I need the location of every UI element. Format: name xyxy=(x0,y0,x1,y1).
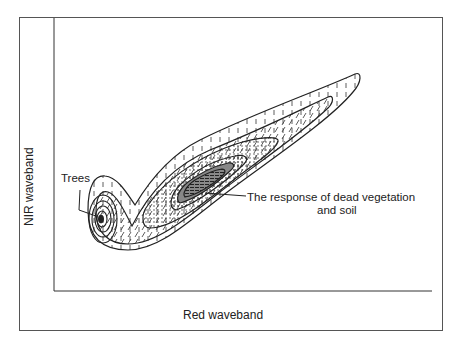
dead-vegetation-label-line1: The response of dead vegetation xyxy=(247,191,415,203)
dead-vegetation-label-line2: and soil xyxy=(317,204,357,216)
trees-label: Trees xyxy=(61,172,90,184)
y-axis-label: NIR waveband xyxy=(22,147,36,226)
x-axis-label: Red waveband xyxy=(183,308,263,322)
